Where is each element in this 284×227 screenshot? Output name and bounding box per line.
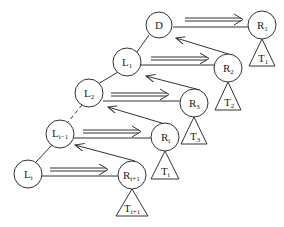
node-ri: Ri <box>151 123 179 151</box>
arrow-right-1 <box>185 14 243 25</box>
edge-d-l1 <box>137 35 149 52</box>
arrow-back-r2-d <box>176 38 235 56</box>
node-label-d: D <box>155 19 163 31</box>
node-ri+1: Ri+1 <box>118 161 146 189</box>
arrow-right-5 <box>50 164 108 175</box>
subtree-t3: T3 <box>181 117 207 144</box>
node-l2: L2 <box>75 79 103 107</box>
node-li-1: Li−1 <box>46 120 74 148</box>
arrow-right-2 <box>151 53 209 64</box>
edge-li-1-li <box>36 145 52 162</box>
subtree-ti: Ti <box>151 151 179 179</box>
edge-l2-li-1-dashed <box>68 105 82 122</box>
arrow-back-r3-l1 <box>146 76 200 90</box>
subtree-ti+1: Ti+1 <box>116 189 148 216</box>
edge-l1-l2 <box>98 72 118 84</box>
subtree-t1: T1 <box>249 39 275 66</box>
node-li: Li <box>14 160 42 188</box>
rotation-diagram: T1 T2 T3 Ti Ti+1 D R1 L1 R2 L2 R3 <box>0 0 284 227</box>
node-r3: R3 <box>180 89 208 117</box>
arrow-back-ri+1-li-1 <box>75 145 135 161</box>
node-l1: L1 <box>113 48 141 76</box>
node-d: D <box>146 12 172 38</box>
arrow-right-4 <box>83 126 141 137</box>
arrow-right-3 <box>111 89 169 100</box>
subtree-t2: T2 <box>215 82 241 110</box>
arrow-back-ri-l2 <box>108 107 165 124</box>
node-r1: R1 <box>248 11 276 39</box>
node-r2: R2 <box>214 54 242 82</box>
